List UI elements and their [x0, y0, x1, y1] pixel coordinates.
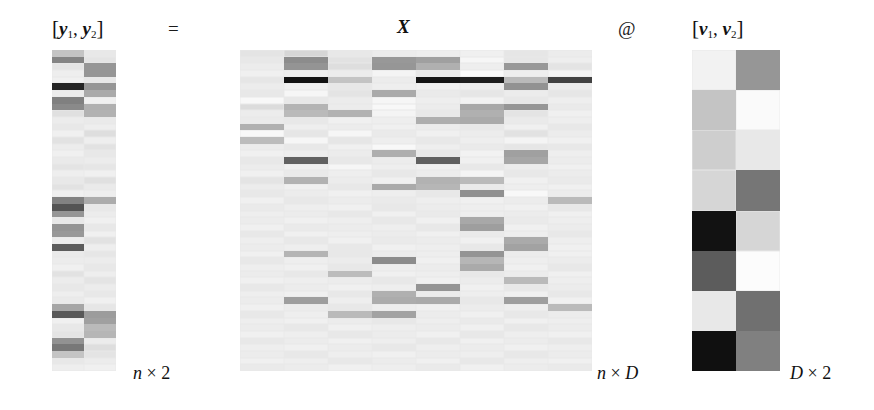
- heatmap-cell: [328, 77, 372, 84]
- heatmap-cell: [240, 358, 284, 365]
- heatmap-cell: [416, 117, 460, 124]
- heatmap-cell: [460, 184, 504, 191]
- heatmap-cell: [372, 284, 416, 291]
- heatmap-cell: [372, 244, 416, 251]
- heatmap-cell: [504, 144, 548, 151]
- heatmap-cell: [52, 130, 84, 137]
- heatmap-cell: [548, 331, 592, 338]
- heatmap-cell: [240, 190, 284, 197]
- heatmap-cell: [240, 197, 284, 204]
- heatmap-cell: [416, 271, 460, 278]
- heatmap-cell: [460, 237, 504, 244]
- heatmap-cell: [52, 318, 84, 325]
- heatmap-cell: [372, 338, 416, 345]
- heatmap-cell: [84, 83, 116, 90]
- heatmap-cell: [84, 104, 116, 111]
- heatmap-cell: [460, 124, 504, 131]
- heatmap-cell: [372, 170, 416, 177]
- heatmap-cell: [460, 164, 504, 171]
- heatmap-cell: [284, 351, 328, 358]
- heatmap-cell: [416, 304, 460, 311]
- heatmap-cell: [328, 150, 372, 157]
- heatmap-cell: [52, 104, 84, 111]
- heatmap-cell: [240, 164, 284, 171]
- heatmap-cell: [52, 97, 84, 104]
- heatmap-cell: [460, 137, 504, 144]
- heatmap-cell: [240, 324, 284, 331]
- heatmap-cell: [460, 63, 504, 70]
- heatmap-cell: [548, 251, 592, 258]
- heatmap-cell: [460, 358, 504, 365]
- heatmap-cell: [284, 124, 328, 131]
- v-symbol-2: v: [722, 18, 730, 39]
- heatmap-cell: [416, 257, 460, 264]
- heatmap-cell: [416, 124, 460, 131]
- heatmap-cell: [284, 170, 328, 177]
- heatmap-cell: [328, 97, 372, 104]
- heatmap-cell: [548, 311, 592, 318]
- heatmap-cell: [284, 338, 328, 345]
- heatmap-cell: [548, 157, 592, 164]
- heatmap-cell: [416, 57, 460, 64]
- heatmap-cell: [328, 231, 372, 238]
- heatmap-cell: [84, 338, 116, 345]
- heatmap-cell: [328, 257, 372, 264]
- heatmap-cell: [328, 237, 372, 244]
- heatmap-cell: [372, 271, 416, 278]
- heatmap-cell: [284, 63, 328, 70]
- heatmap-x: [240, 50, 592, 371]
- heatmap-cell: [284, 184, 328, 191]
- heatmap-cell: [548, 164, 592, 171]
- heatmap-cell: [692, 90, 736, 130]
- heatmap-cell: [284, 117, 328, 124]
- heatmap-cell: [328, 70, 372, 77]
- heatmap-cell: [240, 331, 284, 338]
- heatmap-cell: [84, 304, 116, 311]
- heatmap-cell: [284, 197, 328, 204]
- heatmap-cell: [460, 244, 504, 251]
- heatmap-cell: [548, 190, 592, 197]
- heatmap-cell: [328, 204, 372, 211]
- heatmap-cell: [240, 318, 284, 325]
- heatmap-cell: [548, 170, 592, 177]
- heatmap-cell: [460, 77, 504, 84]
- heatmap-cell: [52, 90, 84, 97]
- heatmap-cell: [460, 83, 504, 90]
- heatmap-cell: [84, 57, 116, 64]
- heatmap-cell: [548, 351, 592, 358]
- heatmap-cell: [52, 324, 84, 331]
- heatmap-cell: [52, 70, 84, 77]
- heatmap-cell: [372, 351, 416, 358]
- heatmap-cell: [372, 344, 416, 351]
- heatmap-cell: [240, 311, 284, 318]
- heatmap-cell: [240, 231, 284, 238]
- heatmap-cell: [240, 251, 284, 258]
- heatmap-cell: [504, 257, 548, 264]
- heatmap-cell: [284, 110, 328, 117]
- heatmap-cell: [328, 217, 372, 224]
- heatmap-cell: [84, 264, 116, 271]
- heatmap-cell: [416, 237, 460, 244]
- heatmap-cell: [504, 197, 548, 204]
- heatmap-cell: [548, 291, 592, 298]
- heatmap-cell: [504, 177, 548, 184]
- heatmap-cell: [372, 190, 416, 197]
- heatmap-cell: [692, 331, 736, 371]
- heatmap-cell: [84, 324, 116, 331]
- heatmap-cell: [328, 284, 372, 291]
- heatmap-cell: [504, 97, 548, 104]
- heatmap-cell: [504, 304, 548, 311]
- heatmap-cell: [372, 358, 416, 365]
- heatmap-cell: [548, 304, 592, 311]
- heatmap-cell: [240, 77, 284, 84]
- label-y-vectors: [y1, y2]: [52, 16, 103, 41]
- heatmap-cell: [548, 184, 592, 191]
- heatmap-cell: [52, 344, 84, 351]
- heatmap-cell: [284, 304, 328, 311]
- heatmap-cell: [84, 257, 116, 264]
- heatmap-cell: [284, 97, 328, 104]
- heatmap-cell: [504, 110, 548, 117]
- heatmap-cell: [372, 264, 416, 271]
- heatmap-cell: [284, 244, 328, 251]
- heatmap-cell: [460, 257, 504, 264]
